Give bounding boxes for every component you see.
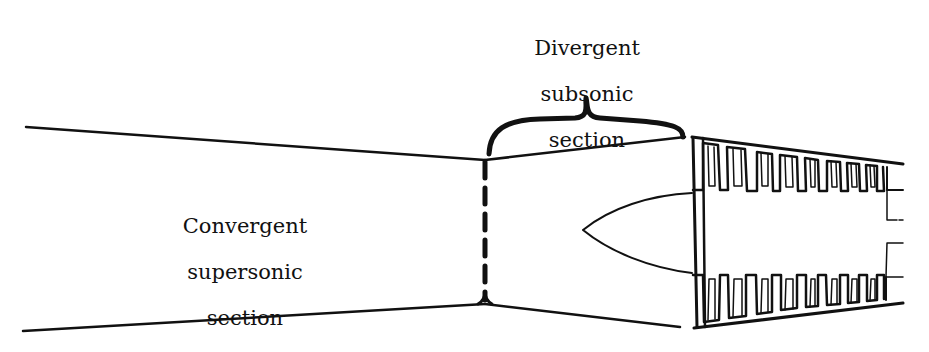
convergent-supersonic-section-label: Convergent supersonic section xyxy=(170,192,320,352)
lower-baffle-fins-inner xyxy=(708,279,875,320)
engine-lower-casing xyxy=(694,303,903,328)
upper-baffle-fins-inner xyxy=(708,146,875,187)
lower-baffle-fins xyxy=(693,275,884,322)
divergent-label-line1: Divergent xyxy=(512,37,662,60)
divergent-label-line2: subsonic xyxy=(512,83,662,106)
center-body-cone xyxy=(583,193,692,273)
divergent-subsonic-section-label: Divergent subsonic section xyxy=(512,14,662,175)
convergent-label-line2: supersonic xyxy=(170,261,320,284)
convergent-upper-wall xyxy=(26,127,485,160)
outlet-upper-step xyxy=(887,190,897,220)
divergent-label-line3: section xyxy=(512,129,662,152)
convergent-label-line1: Convergent xyxy=(170,215,320,238)
diagram-canvas: Convergent supersonic section Divergent … xyxy=(0,0,929,352)
outlet-upper-bracket xyxy=(887,167,903,190)
outlet-lower-step xyxy=(886,243,903,277)
ramjet-inlet-drawing xyxy=(0,0,929,352)
convergent-label-line3: section xyxy=(170,307,320,330)
engine-face-line-outer xyxy=(693,138,697,327)
divergent-lower-wall xyxy=(485,304,680,327)
